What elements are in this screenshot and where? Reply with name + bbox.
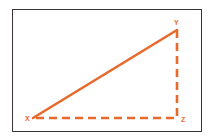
vertex-label-y: Y (174, 19, 179, 26)
triangle-diagram: X Y Z (0, 0, 211, 140)
vertex-label-z: Z (181, 116, 186, 123)
vertex-label-x: X (25, 115, 30, 122)
hypotenuse-xy (33, 30, 177, 118)
